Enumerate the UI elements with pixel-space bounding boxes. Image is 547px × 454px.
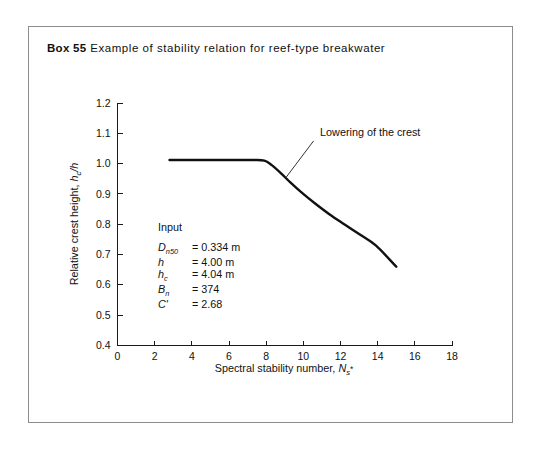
y-tick-label: 1.2 [96, 97, 111, 109]
x-tick-label: 6 [226, 350, 232, 362]
x-tick-label: 18 [446, 350, 458, 362]
input-parameter-value: = 2.68 [192, 299, 240, 311]
input-parameter-symbol: Bn [158, 284, 192, 299]
chart-canvas: 0.40.50.60.70.80.91.01.11.2 024681012141… [0, 0, 547, 454]
input-parameter-row: C'= 2.68 [158, 299, 240, 311]
x-tick-label: 14 [372, 350, 384, 362]
input-parameter-row: hc= 4.04 m [158, 269, 240, 284]
input-parameters-table: Dn50= 0.334 mh= 4.00 mhc= 4.04 mBn= 374C… [158, 242, 240, 312]
input-parameter-value: = 4.04 m [192, 269, 240, 284]
page-root: Box 55 Example of stability relation for… [0, 0, 547, 454]
y-tick-label: 0.7 [96, 248, 111, 260]
x-axis-ticks: 024681012141618 [115, 341, 458, 362]
input-parameter-value: = 0.334 m [192, 242, 240, 257]
y-tick-label: 0.6 [96, 278, 111, 290]
y-tick-label: 0.5 [96, 309, 111, 321]
input-parameter-row: Dn50= 0.334 m [158, 242, 240, 257]
x-tick-label: 10 [297, 350, 309, 362]
y-tick-label: 1.0 [96, 157, 111, 169]
x-tick-label: 2 [152, 350, 158, 362]
y-tick-label: 0.4 [96, 339, 111, 351]
input-parameter-value: = 374 [192, 284, 240, 299]
chart-annotation-group: Lowering of the crest [286, 126, 421, 178]
annotation-label: Lowering of the crest [320, 126, 420, 138]
input-parameters-panel: Input Dn50= 0.334 mh= 4.00 mhc= 4.04 mBn… [158, 222, 240, 311]
input-parameter-symbol: hc [158, 269, 192, 284]
y-axis-title: Relative crest height, hc/h [68, 163, 83, 286]
input-heading: Input [158, 222, 240, 233]
annotation-leader-line [286, 141, 314, 178]
y-axis-ticks: 0.40.50.60.70.80.91.01.11.2 [96, 97, 123, 352]
y-tick-label: 0.9 [96, 188, 111, 200]
x-axis-title: Spectral stability number, Ns* [215, 362, 354, 377]
y-tick-label: 1.1 [96, 127, 111, 139]
x-tick-label: 8 [263, 350, 269, 362]
x-tick-label: 16 [409, 350, 421, 362]
x-tick-label: 4 [189, 350, 195, 362]
input-parameter-symbol: Dn50 [158, 242, 192, 257]
input-parameter-symbol: C' [158, 299, 192, 311]
input-parameter-row: Bn= 374 [158, 284, 240, 299]
y-tick-label: 0.8 [96, 218, 111, 230]
x-tick-label: 12 [335, 350, 347, 362]
x-tick-label: 0 [115, 350, 121, 362]
